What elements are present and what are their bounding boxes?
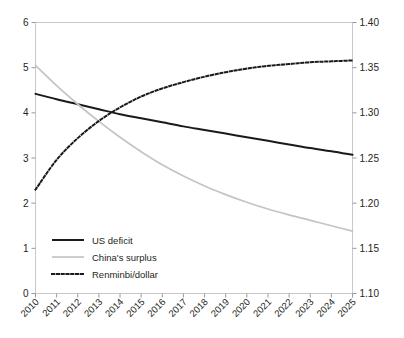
x-axis-labels: 2010201120122013201420152016201720182019… — [18, 296, 358, 319]
x-axis-tick-label: 2017 — [166, 296, 189, 319]
y-axis-right-tick-label: 1.25 — [360, 153, 380, 164]
series-line — [36, 65, 353, 231]
x-axis-tick-label: 2019 — [208, 296, 231, 319]
data-series-group — [36, 60, 353, 231]
x-axis-ticks — [36, 294, 353, 298]
x-axis-tick-label: 2012 — [60, 296, 83, 319]
y-axis-right-tick-label: 1.35 — [360, 62, 380, 73]
x-axis-tick-label: 2022 — [272, 296, 295, 319]
series-line — [36, 94, 353, 155]
x-axis-tick-label: 2023 — [293, 296, 316, 319]
y-axis-left-ticks — [32, 23, 36, 294]
y-axis-left-tick-label: 3 — [23, 153, 29, 164]
x-axis-tick-label: 2013 — [82, 296, 105, 319]
y-axis-left-tick-label: 1 — [23, 243, 29, 254]
x-axis-tick-label: 2015 — [124, 296, 147, 319]
y-axis-left-tick-label: 0 — [23, 288, 29, 299]
line-chart: 0123456 1.101.151.201.251.301.351.40 201… — [0, 0, 404, 338]
y-axis-right-tick-label: 1.15 — [360, 243, 380, 254]
legend-label: Renminbi/dollar — [92, 269, 158, 280]
y-axis-left-tick-label: 5 — [23, 62, 29, 73]
y-axis-right-labels: 1.101.151.201.251.301.351.40 — [360, 17, 380, 299]
x-axis-tick-label: 2025 — [335, 296, 358, 319]
x-axis-tick-label: 2024 — [314, 296, 337, 319]
series-line — [36, 60, 353, 189]
x-axis-tick-label: 2016 — [145, 296, 168, 319]
x-axis-tick-label: 2020 — [230, 296, 253, 319]
chart-container: 0123456 1.101.151.201.251.301.351.40 201… — [0, 0, 404, 338]
y-axis-left-tick-label: 4 — [23, 107, 29, 118]
y-axis-right-ticks — [353, 23, 357, 294]
x-axis-tick-label: 2011 — [40, 296, 62, 318]
y-axis-right-tick-label: 1.30 — [360, 107, 380, 118]
plot-frame — [36, 23, 353, 294]
y-axis-left-labels: 0123456 — [23, 17, 29, 299]
legend-label: US deficit — [92, 235, 133, 246]
x-axis-tick-label: 2021 — [251, 296, 274, 319]
chart-legend: US deficitChina's surplusRenminbi/dollar — [52, 235, 158, 280]
x-axis-tick-label: 2018 — [187, 296, 210, 319]
y-axis-right-tick-label: 1.10 — [360, 288, 380, 299]
legend-label: China's surplus — [92, 252, 157, 263]
y-axis-right-tick-label: 1.20 — [360, 198, 380, 209]
y-axis-left-tick-label: 2 — [23, 198, 29, 209]
y-axis-left-tick-label: 6 — [23, 17, 29, 28]
x-axis-tick-label: 2014 — [103, 296, 126, 319]
y-axis-right-tick-label: 1.40 — [360, 17, 380, 28]
x-axis-tick-label: 2010 — [18, 296, 41, 319]
